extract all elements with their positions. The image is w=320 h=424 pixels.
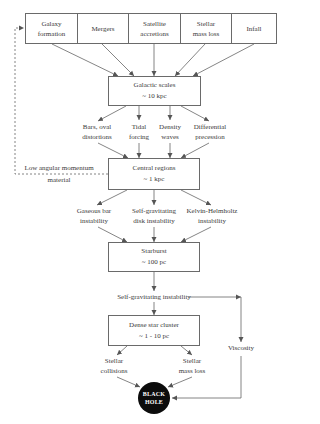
text: distortions [82, 132, 112, 142]
text: HOLE [145, 398, 163, 406]
label-bars-oval-distortions: Bars, oval distortions [82, 122, 112, 142]
label: Mergers [91, 24, 114, 34]
box-galaxy-formation: Galaxy formation [25, 13, 78, 44]
text: material [48, 175, 71, 185]
box-scale: ~ 100 pc [142, 257, 166, 268]
box-title: Starburst [141, 246, 166, 257]
text: instability [187, 216, 238, 226]
label: Galaxy [41, 19, 61, 29]
text: mass loss [179, 366, 206, 376]
box-satellite-accretions: Satellite accretions [128, 13, 181, 44]
box-scale: ~ 1 kpc [144, 174, 165, 185]
text: collisions [101, 366, 128, 376]
label-stellar-collisions: Stellar collisions [101, 356, 128, 376]
box-mergers: Mergers [77, 13, 129, 44]
box-starburst: Starburst ~ 100 pc [108, 242, 200, 272]
black-hole-node: BLACK HOLE [138, 382, 170, 414]
label-differential-precession: Differential precession [194, 122, 227, 142]
box-title: Galactic scales [134, 80, 176, 91]
label: Stellar [197, 19, 215, 29]
label: Satellite [143, 19, 166, 29]
label-low-angular-momentum: Low angular momentum [24, 163, 93, 173]
label: mass loss [193, 29, 220, 39]
text: Gaseous bar [77, 206, 111, 216]
label-kelvin-helmholtz-instability: Kelvin-Helmholtz instability [187, 206, 238, 226]
text: Stellar [179, 356, 206, 366]
text: Stellar [101, 356, 128, 366]
box-central-regions: Central regions ~ 1 kpc [108, 158, 200, 190]
box-infall: Infall [231, 13, 277, 44]
text: Self-gravitating [132, 206, 176, 216]
label-density-waves: Density waves [159, 122, 181, 142]
text: Kelvin-Helmholtz [187, 206, 238, 216]
label-self-gravitating-disk-instability: Self-gravitating disk instability [132, 206, 176, 226]
text: instability [77, 216, 111, 226]
text: precession [194, 132, 227, 142]
label-material: material [48, 175, 71, 185]
text: Density [159, 122, 181, 132]
box-galactic-scales: Galactic scales ~ 10 kpc [108, 76, 201, 106]
label: accretions [140, 29, 168, 39]
text: Bars, oval [82, 122, 112, 132]
label-viscosity: Viscosity [228, 343, 254, 353]
box-title: Dense star cluster [129, 320, 179, 331]
text: forcing [129, 132, 149, 142]
box-scale: ~ 1 - 10 pc [139, 331, 169, 342]
text: disk instability [132, 216, 176, 226]
label: formation [38, 29, 66, 39]
text: Differential [194, 122, 227, 132]
box-dense-star-cluster: Dense star cluster ~ 1 - 10 pc [108, 315, 200, 346]
text: Tidal [129, 122, 149, 132]
text: Viscosity [228, 343, 254, 353]
label: Infall [246, 24, 261, 34]
text: Low angular momentum [24, 163, 93, 173]
text: waves [159, 132, 181, 142]
label-tidal-forcing: Tidal forcing [129, 122, 149, 142]
box-title: Central regions [133, 163, 176, 174]
box-scale: ~ 10 kpc [142, 91, 166, 102]
label-gaseous-bar-instability: Gaseous bar instability [77, 206, 111, 226]
label-self-gravitating-instability: Self-gravitating instability [117, 292, 191, 302]
text: BLACK [143, 390, 165, 398]
label-stellar-mass-loss: Stellar mass loss [179, 356, 206, 376]
box-stellar-mass-loss: Stellar mass loss [180, 13, 232, 44]
text: Self-gravitating instability [117, 292, 191, 302]
